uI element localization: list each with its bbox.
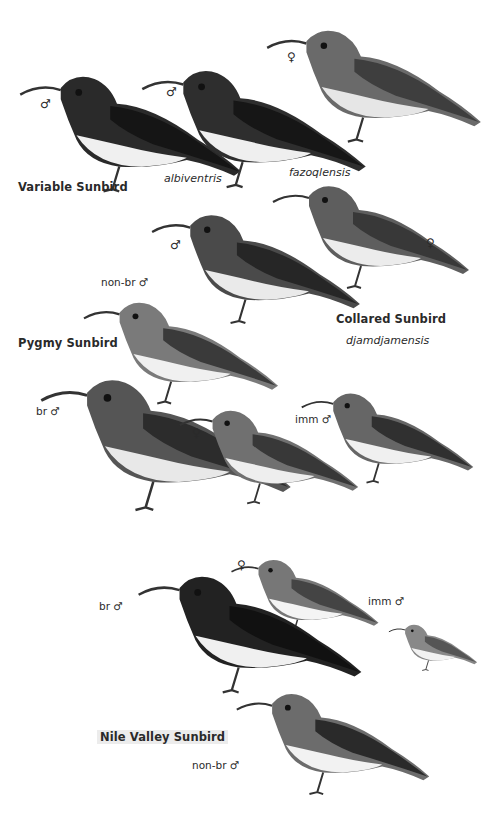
bird-nile-br-male: [100, 572, 400, 697]
label-imm-male: imm ♂: [295, 413, 331, 425]
bird-variable-female: [265, 26, 483, 146]
bird-nile-nonbr-male: [185, 690, 481, 798]
sex-symbol-female: ♀: [287, 50, 296, 64]
subspecies-albiventris: albiventris: [164, 172, 222, 185]
sex-symbol-male: ♂: [170, 238, 181, 252]
sex-symbol-female: ♀: [192, 426, 201, 440]
bird-collared-female: [258, 182, 484, 292]
field-guide-plate: ♂ ♂ ♀ Variable Sunbird albiventris fazoq…: [0, 0, 502, 815]
subspecies-fazoqlensis: fazoqlensis: [289, 166, 350, 179]
sex-symbol-male: ♂: [40, 97, 51, 111]
label-non-br-male: non-br ♂: [192, 759, 239, 771]
sex-symbol-female: ♀: [426, 236, 435, 250]
subspecies-djamdjamensis: djamdjamensis: [346, 334, 429, 347]
label-br-male: br ♂: [99, 600, 123, 612]
species-name-nile-valley-sunbird: Nile Valley Sunbird: [97, 730, 228, 744]
sex-symbol-female: ♀: [237, 558, 246, 572]
species-name-pygmy-sunbird: Pygmy Sunbird: [18, 336, 118, 350]
label-br-male: br ♂: [36, 405, 60, 417]
label-non-br-male: non-br ♂: [101, 276, 148, 288]
bird-pygmy-imm-male: [300, 383, 475, 493]
species-name-variable-sunbird: Variable Sunbird: [18, 180, 128, 194]
sex-symbol-male: ♂: [166, 85, 177, 99]
label-imm-male: imm ♂: [368, 595, 404, 607]
species-name-collared-sunbird: Collared Sunbird: [336, 312, 446, 326]
